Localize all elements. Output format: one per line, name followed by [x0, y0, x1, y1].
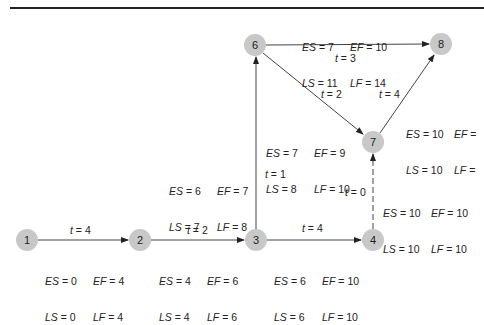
svg-text:7: 7 — [370, 136, 376, 148]
duration-1-2: t = 4 — [70, 224, 91, 236]
svg-text:2: 2 — [137, 234, 143, 246]
svg-text:8: 8 — [438, 38, 444, 50]
node-8: 8 — [430, 33, 452, 55]
svg-text:6: 6 — [252, 39, 258, 51]
times-2-3: ES = 4EF = 6 LS = 4LF = 6 — [159, 251, 238, 325]
svg-text:4: 4 — [370, 234, 376, 246]
node-2: 2 — [129, 229, 151, 251]
duration-3-4: t = 4 — [302, 222, 323, 234]
times-3-6: ES = 6EF = 7 LS = 7LF = 8 — [169, 161, 248, 245]
node-1: 1 — [16, 229, 38, 251]
node-4: 4 — [362, 229, 384, 251]
svg-text:3: 3 — [253, 234, 259, 246]
times-6-7: ES = 7EF = 9 LS = 8LF = 10 — [266, 123, 350, 207]
node-3: 3 — [245, 229, 267, 251]
times-1-2: ES = 0EF = 4 LS = 0LF = 4 — [45, 251, 124, 325]
times-4-7: ES = 10EF = 10 LS = 10LF = 10 — [383, 183, 468, 267]
times-7-8: ES = 10EF = LS = 10LF = — [406, 104, 476, 188]
node-6: 6 — [244, 34, 266, 56]
times-6-8: ES = 7EF = 10 LS = 11LF = 14 — [302, 17, 387, 101]
node-7: 7 — [362, 131, 384, 153]
svg-text:1: 1 — [24, 234, 30, 246]
times-3-4: ES = 6EF = 10 LS = 6LF = 10 — [274, 251, 359, 325]
